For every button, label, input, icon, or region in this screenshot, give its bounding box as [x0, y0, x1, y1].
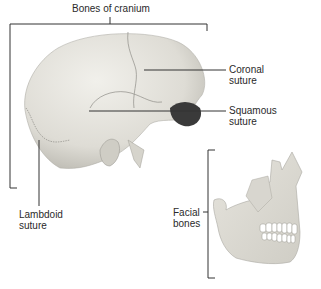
skull-illustration — [0, 0, 321, 289]
label-squamous-suture: Squamous suture — [229, 105, 277, 127]
label-lambdoid-suture: Lambdoid suture — [19, 209, 63, 231]
label-facial-bones: Facial bones — [173, 207, 200, 229]
label-line: suture — [229, 75, 264, 86]
cranium — [25, 32, 205, 168]
facial-bracket — [208, 150, 215, 278]
facial-bones — [213, 152, 302, 264]
label-line: bones — [173, 218, 200, 229]
label-line: Coronal — [229, 64, 264, 75]
label-line: suture — [229, 116, 277, 127]
label-line: Squamous — [229, 105, 277, 116]
label-line: suture — [19, 220, 63, 231]
label-line: Facial — [173, 207, 200, 218]
title-bones-of-cranium: Bones of cranium — [72, 3, 150, 14]
label-coronal-suture: Coronal suture — [229, 64, 264, 86]
label-line: Lambdoid — [19, 209, 63, 220]
